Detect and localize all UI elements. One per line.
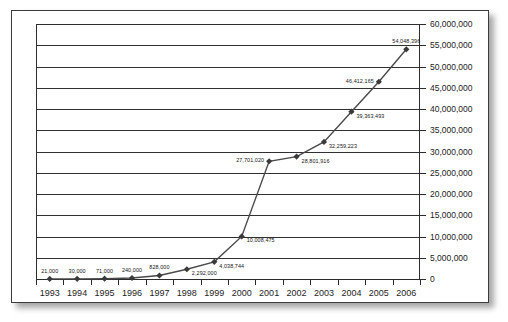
x-axis-label: 1998 [173, 289, 200, 298]
x-axis-tick [63, 279, 64, 285]
x-axis-tick [118, 279, 119, 285]
data-point-label: 39,363,493 [356, 114, 384, 119]
series-line [36, 24, 420, 279]
x-axis-label: 2006 [393, 289, 420, 298]
x-axis-tick [310, 279, 311, 285]
y-axis-label: 30,000,000 [430, 148, 473, 157]
x-axis-tick [255, 279, 256, 285]
x-axis-tick [420, 279, 421, 285]
x-axis-tick [283, 279, 284, 285]
data-point-label: 10,008,475 [247, 239, 275, 244]
x-axis-label: 1999 [201, 289, 228, 298]
x-axis-tick [91, 279, 92, 285]
data-point-label: 4,038,744 [219, 264, 244, 269]
data-point-label: 71,000 [96, 268, 113, 273]
data-point-label: 54,048,396 [392, 39, 420, 44]
x-axis-tick [338, 279, 339, 285]
y-axis-label: 15,000,000 [430, 211, 473, 220]
y-axis-tick [420, 173, 426, 174]
y-axis-tick [420, 109, 426, 110]
data-point-marker [129, 275, 135, 281]
x-axis-tick [201, 279, 202, 285]
data-point-marker [293, 153, 299, 159]
data-point-marker [101, 276, 107, 282]
chart-frame: 05,000,00010,000,00015,000,00020,000,000… [11, 10, 489, 303]
y-axis-label: 5,000,000 [430, 254, 468, 263]
data-point-marker [156, 272, 162, 278]
data-point-label: 30,000 [69, 268, 86, 273]
data-point-label: 32,259,223 [329, 144, 357, 149]
y-axis-label: 60,000,000 [430, 20, 473, 29]
y-axis-label: 20,000,000 [430, 190, 473, 199]
x-axis-label: 2001 [255, 289, 282, 298]
data-point-label: 27,701,020 [236, 159, 264, 164]
x-axis-label: 2005 [365, 289, 392, 298]
data-point-label: 46,412,165 [346, 79, 374, 84]
y-axis-label: 45,000,000 [430, 84, 473, 93]
y-axis-tick [420, 45, 426, 46]
x-axis-tick [173, 279, 174, 285]
x-axis-tick [393, 279, 394, 285]
y-axis-label: 10,000,000 [430, 233, 473, 242]
x-axis-label: 2003 [310, 289, 337, 298]
x-axis-label: 2002 [283, 289, 310, 298]
y-axis-label: 50,000,000 [430, 63, 473, 72]
x-axis-tick [228, 279, 229, 285]
x-axis-tick [365, 279, 366, 285]
data-point-marker [266, 158, 272, 164]
y-axis-tick [420, 67, 426, 68]
x-axis-label: 1997 [146, 289, 173, 298]
y-axis-label: 25,000,000 [430, 169, 473, 178]
y-axis-tick [420, 237, 426, 238]
x-axis-tick [36, 279, 37, 285]
y-axis-tick [420, 215, 426, 216]
x-axis-label: 2000 [228, 289, 255, 298]
x-axis-tick [146, 279, 147, 285]
plot-area: 05,000,00010,000,00015,000,00020,000,000… [36, 24, 420, 279]
y-axis-label: 55,000,000 [430, 41, 473, 50]
y-axis-tick [420, 88, 426, 89]
x-axis-label: 1994 [63, 289, 90, 298]
y-axis-tick [420, 130, 426, 131]
x-axis-label: 1996 [118, 289, 145, 298]
y-axis-tick [420, 24, 426, 25]
x-axis-label: 1995 [91, 289, 118, 298]
x-axis-label: 1993 [36, 289, 63, 298]
y-axis-label: 0 [430, 275, 435, 284]
data-point-label: 28,801,916 [302, 159, 330, 164]
data-point-label: 21,000 [41, 269, 58, 274]
y-axis-tick [420, 152, 426, 153]
x-axis-label: 2004 [338, 289, 365, 298]
data-point-marker [74, 276, 80, 282]
data-point-label: 240,000 [122, 268, 142, 273]
y-axis-tick [420, 194, 426, 195]
data-point-marker [184, 266, 190, 272]
y-axis-tick [420, 258, 426, 259]
y-axis-label: 40,000,000 [430, 105, 473, 114]
y-axis-label: 35,000,000 [430, 126, 473, 135]
data-point-label: 2,292,000 [192, 272, 217, 277]
data-point-label: 828,000 [149, 265, 169, 270]
data-point-marker [47, 276, 53, 282]
